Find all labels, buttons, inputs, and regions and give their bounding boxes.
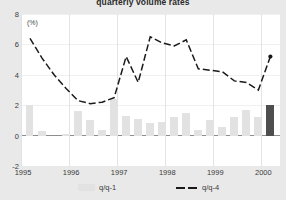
y-axis-tick-label: 2 [1, 101, 19, 110]
x-axis-tick-label: 1997 [111, 168, 128, 177]
x-axis-tick-label: 1996 [63, 168, 80, 177]
x-axis-tick-label: 1995 [15, 168, 32, 177]
legend-bar-swatch-icon [78, 184, 95, 191]
y-axis-tick-label: 4 [1, 70, 19, 79]
line-path [30, 37, 270, 104]
y-axis-tick-label: 6 [1, 40, 19, 49]
line-series-q-q-4 [21, 14, 280, 166]
legend-item-q-q-4: q/q-4 [176, 183, 219, 192]
x-axis-tick-label: 2000 [255, 168, 272, 177]
chart-root: quarterly volume rates 86420-2 (%) 19951… [0, 0, 286, 200]
chart-title: quarterly volume rates [0, 0, 286, 7]
legend-label-q-q-4: q/q-4 [202, 183, 219, 192]
legend: q/q-1 q/q-4 [0, 183, 286, 197]
x-axis-tick-label: 1999 [207, 168, 224, 177]
legend-label-q-q-1: q/q-1 [99, 183, 116, 192]
y-axis-tick-label: 8 [1, 10, 19, 19]
y-axis-tick-label: 0 [1, 131, 19, 140]
plot-clip: (%) [21, 14, 280, 166]
plot-area: (%) [21, 14, 280, 166]
x-axis: 199519961997199819992000 [21, 168, 280, 180]
y-axis: 86420-2 [0, 14, 19, 166]
line-end-marker [268, 54, 272, 58]
x-axis-tick-label: 1998 [159, 168, 176, 177]
legend-item-q-q-1: q/q-1 [78, 183, 116, 192]
legend-dashed-line-icon [176, 184, 198, 191]
unit-label: (%) [27, 19, 38, 26]
